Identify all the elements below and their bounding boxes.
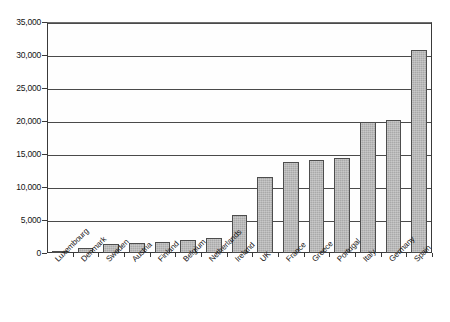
x-tick-label: Greece (311, 240, 335, 264)
x-tick-label: Germany (388, 235, 416, 263)
x-tick-mark (329, 253, 330, 257)
x-tick-mark (124, 253, 125, 257)
x-tick-mark (98, 253, 99, 257)
x-tick-mark (227, 253, 228, 257)
x-tick-mark (355, 253, 356, 257)
x-tick-mark (381, 253, 382, 257)
x-tick-label: Portugal (336, 237, 362, 263)
x-tick-mark (150, 253, 151, 257)
x-tick-mark (73, 253, 74, 257)
x-tick-label: Denmark (80, 236, 108, 264)
x-tick-label: Italy (362, 248, 378, 264)
x-tick-mark (406, 253, 407, 257)
x-tick-mark (304, 253, 305, 257)
x-tick-label: Spain (413, 244, 433, 264)
x-tick-mark (432, 253, 433, 257)
x-tick-mark (175, 253, 176, 257)
x-tick-label: Finland (157, 240, 181, 264)
x-tick-label: UK (259, 250, 272, 263)
x-tick-label: Belgium (182, 238, 208, 264)
x-tick-mark (201, 253, 202, 257)
x-axis: LuxembourgDenmarkSwedenAustriaFinlandBel… (0, 0, 450, 322)
x-tick-mark (278, 253, 279, 257)
bar-chart: 05,00010,00015,00020,00025,00030,00035,0… (0, 0, 450, 322)
x-tick-mark (252, 253, 253, 257)
x-tick-label: Sweden (105, 238, 131, 264)
